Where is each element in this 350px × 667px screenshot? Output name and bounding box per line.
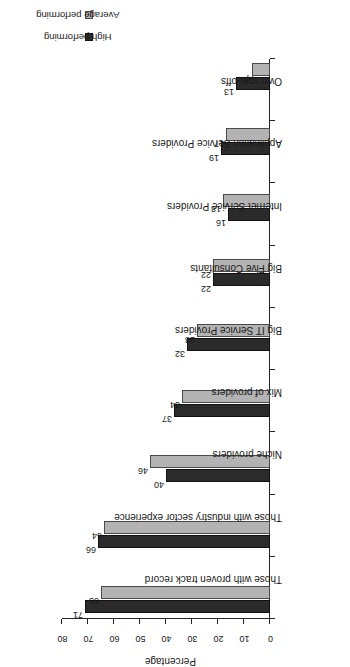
bar-value-label: 37 (162, 414, 172, 423)
category-axis-tick (270, 245, 275, 246)
category-axis-tick (270, 120, 275, 121)
category-label: Application Service Providers (152, 138, 282, 148)
bar-wrapper: 7 (62, 63, 270, 76)
bar-value-label: 13 (224, 88, 234, 97)
value-axis-tick-label: 0 (260, 634, 282, 643)
value-axis-tick (139, 619, 140, 624)
value-axis-tick-label: 40 (156, 634, 178, 643)
category-label: Mix of providers (211, 387, 282, 397)
value-axis-tick (113, 619, 114, 624)
bar-wrapper: 40 (62, 469, 270, 482)
bar-value-label: 34 (170, 400, 180, 409)
bar-high-performing (166, 469, 270, 482)
category-axis-tick (270, 307, 275, 308)
category-label: Internet Service Providers (167, 201, 282, 211)
value-axis-tick-label: 70 (78, 634, 100, 643)
category-label: Niche providers (213, 449, 282, 459)
rotated-figure-container: High performing Average performing 01020… (0, 0, 350, 667)
bar-value-label: 65 (89, 597, 99, 606)
category-label: Own spin-offs (221, 76, 282, 86)
bar-value-label: 40 (154, 480, 164, 489)
value-axis-tick-label: 80 (52, 634, 74, 643)
bar-average-performing (252, 63, 270, 76)
bar-value-label: 16 (216, 218, 226, 227)
bar-value-label: 32 (175, 349, 185, 358)
bar-value-label: 46 (138, 466, 148, 475)
legend-item-high-performing: High performing (8, 32, 93, 42)
value-axis-tick (165, 619, 166, 624)
value-axis-tick-label: 30 (182, 634, 204, 643)
bar-value-label: 66 (86, 545, 96, 554)
category-label: Those with proven track record (145, 574, 282, 584)
category-label: Big Five Consultants (190, 263, 282, 273)
bar-high-performing (85, 600, 270, 613)
legend-label-box: Average performing (8, 10, 82, 20)
bar-wrapper: 22 (62, 273, 270, 286)
value-axis-title: Percentage (145, 656, 196, 667)
value-axis-tick (243, 619, 244, 624)
bar-high-performing (174, 404, 270, 417)
category-axis-tick (270, 58, 275, 59)
value-axis-tick (87, 619, 88, 624)
value-axis-tick-label: 10 (234, 634, 256, 643)
value-axis-tick (61, 619, 62, 624)
value-axis-tick (191, 619, 192, 624)
category-axis-tick (270, 556, 275, 557)
bar-value-label: 71 (73, 611, 83, 620)
bar-high-performing (213, 273, 270, 286)
legend-item-average-performing: Average performing (8, 10, 93, 20)
legend-label-box: High performing (8, 32, 82, 42)
bar-value-label: 19 (209, 153, 219, 162)
category-axis-tick (270, 182, 275, 183)
bar-value-label: 28 (185, 335, 195, 344)
bar-value-label: 64 (92, 531, 102, 540)
value-axis-tick (217, 619, 218, 624)
bar-wrapper: 32 (62, 339, 270, 352)
value-axis-tick-label: 50 (130, 634, 152, 643)
value-axis-tick-label: 20 (208, 634, 230, 643)
category-label: Those with industry sector experience (114, 512, 282, 522)
category-label: Big IT Service Providers (175, 325, 282, 335)
chart-legend: High performing Average performing (8, 10, 93, 42)
category-axis-tick (270, 618, 275, 619)
bar-group: 7165 (62, 586, 270, 613)
bar-wrapper: 37 (62, 404, 270, 417)
category-axis-tick (270, 369, 275, 370)
bar-value-label: 22 (201, 284, 211, 293)
category-axis-tick (270, 431, 275, 432)
value-axis-tick-label: 60 (104, 634, 126, 643)
legend-label-average-performing: Average performing (36, 10, 119, 20)
bar-chart-figure: High performing Average performing 01020… (0, 0, 350, 667)
category-axis-tick (270, 494, 275, 495)
bar-wrapper: 65 (62, 586, 270, 599)
value-axis-tick (269, 619, 270, 624)
bar-average-performing (101, 586, 270, 599)
bar-high-performing (187, 339, 270, 352)
category-labels: Those with proven track recordThose with… (278, 59, 348, 619)
bar-group: 6664 (62, 521, 270, 548)
legend-label-high-performing: High performing (43, 32, 111, 42)
bar-high-performing (98, 535, 270, 548)
